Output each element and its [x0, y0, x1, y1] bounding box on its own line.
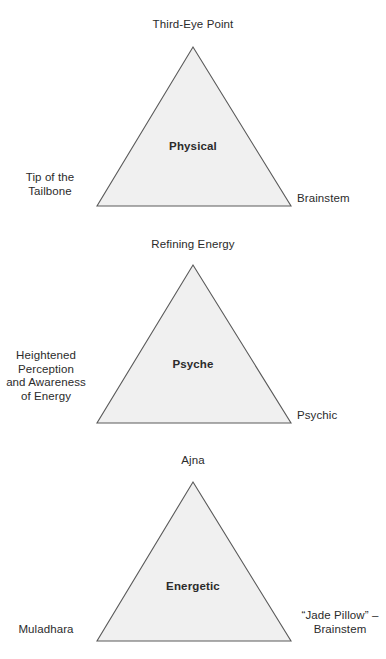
right-label-line: Brainstem [297, 192, 381, 206]
figure-psyche: Refining Energy Heightened Perception an… [0, 230, 386, 445]
left-label-energetic: Muladhara [4, 623, 88, 637]
left-label-line: and Awareness [2, 376, 90, 390]
triangle-diagram-stack: Third-Eye Point Tip of the Tailbone Brai… [0, 0, 386, 659]
triangle-polygon [97, 47, 291, 206]
inner-label-psyche: Psyche [0, 358, 386, 370]
left-label-line: Muladhara [4, 623, 88, 637]
right-label-line: Brainstem [295, 623, 385, 637]
triangle-polygon [97, 482, 291, 641]
left-label-line: Tailbone [10, 185, 90, 199]
triangle-polygon [97, 265, 291, 423]
apex-label-physical: Third-Eye Point [0, 18, 386, 31]
left-label-line: Tip of the [10, 171, 90, 185]
inner-label-physical: Physical [0, 140, 386, 152]
figure-energetic: Ajna Muladhara “Jade Pillow” – Brainstem… [0, 445, 386, 659]
apex-label-energetic: Ajna [0, 454, 386, 467]
left-label-line: of Energy [2, 390, 90, 404]
right-label-physical: Brainstem [297, 192, 381, 206]
right-label-line: “Jade Pillow” – [295, 609, 385, 623]
figure-physical: Third-Eye Point Tip of the Tailbone Brai… [0, 0, 386, 230]
inner-label-energetic: Energetic [0, 580, 386, 592]
right-label-energetic: “Jade Pillow” – Brainstem [295, 609, 385, 636]
apex-label-psyche: Refining Energy [0, 238, 386, 251]
left-label-physical: Tip of the Tailbone [10, 171, 90, 198]
right-label-psyche: Psychic [297, 409, 381, 423]
right-label-line: Psychic [297, 409, 381, 423]
